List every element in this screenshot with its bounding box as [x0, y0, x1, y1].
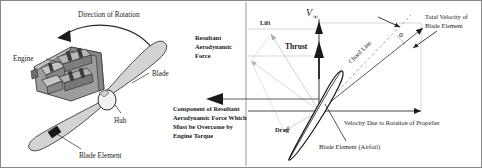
label-drag: Drag [275, 126, 290, 133]
label-alpha: α [399, 30, 404, 39]
label-total-velocity-line1: Total Velocity of [425, 13, 469, 20]
leader-airfoil [325, 104, 346, 141]
label-engine: Engine [13, 55, 33, 63]
label-direction-of-rotation: Direction of Rotation [78, 11, 140, 19]
label-blade-element: Blade Element [79, 152, 122, 160]
label-torque-line1: Component of Resultant [173, 105, 241, 112]
label-torque-line3: Must be Overcome by [173, 123, 234, 130]
label-resultant-aero-force-line3: Force [195, 52, 211, 59]
thrust-vector [314, 41, 324, 79]
propeller-blade-lower [29, 102, 103, 151]
pointer-alpha-upper [378, 17, 400, 27]
right-panel: α Resultant Aerodynamic Force Lift Drag … [173, 7, 469, 160]
diagram-canvas: Direction of Rotation [1, 1, 481, 167]
label-total-velocity-line2: Blade Element [425, 22, 463, 29]
label-v-infinity-subscript: ∞ [313, 13, 318, 21]
label-resultant-aero-force-line1: Resultant [195, 34, 222, 41]
construction-lines [248, 23, 421, 111]
label-chord-line: Chord Line [347, 39, 373, 65]
label-hub: Hub [114, 117, 127, 125]
direction-of-rotation-arrow [57, 25, 153, 49]
label-velocity-rotation: Velocity Due to Rotation of Propeller [344, 119, 441, 126]
engine-block [31, 47, 104, 101]
label-torque-line4: Engine Torque [173, 132, 213, 139]
left-panel: Direction of Rotation [13, 11, 169, 160]
total-velocity-vector [319, 28, 423, 111]
label-blade: Blade [152, 70, 169, 78]
label-blade-element-airfoil: Blade Element (Airfoil) [319, 143, 380, 151]
label-resultant-aero-force-line2: Aerodynamic [195, 43, 232, 50]
propeller-hub [98, 90, 116, 110]
leader-hub [115, 105, 121, 113]
label-thrust: Thrust [285, 42, 308, 51]
figure-container: Direction of Rotation [0, 0, 482, 168]
label-lift: Lift [260, 19, 271, 26]
label-torque-line2: Aerodynamic Force Which [173, 114, 247, 121]
torque-component-vector [206, 93, 319, 105]
leader-blade-element [57, 134, 81, 149]
